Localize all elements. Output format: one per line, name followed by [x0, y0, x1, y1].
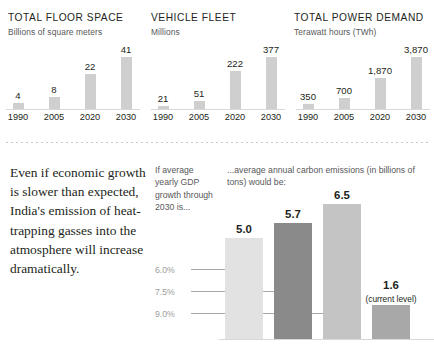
- x-tick-label: 2020: [362, 112, 398, 122]
- chart-plot-area: 4 8 22 41: [0, 44, 145, 110]
- bar-value-label: 700: [336, 85, 352, 96]
- bar: [85, 74, 96, 110]
- bar-value-label: 4: [15, 90, 20, 101]
- chart-plot-area: 350 700 1,870 3,870: [290, 44, 434, 110]
- x-tick-label: 2030: [398, 112, 434, 122]
- chart-subtitle: Billions of square meters: [8, 27, 145, 37]
- bar-value-label: 6.5: [334, 189, 350, 201]
- bar-value-label: 1.6: [383, 279, 399, 291]
- bar-column: 1,870: [362, 44, 398, 110]
- bar-value-label: 5.0: [236, 223, 252, 235]
- chart-carbon-emissions-scenarios: If average yearly GDP growth through 203…: [155, 160, 434, 344]
- bar-column: 222: [217, 44, 253, 110]
- x-axis-labels: 1990 2005 2020 2030: [145, 112, 289, 122]
- x-tick-label: 2005: [36, 112, 72, 122]
- chart-title: TOTAL POWER DEMAND: [294, 12, 434, 23]
- axis-line: [151, 109, 285, 110]
- pull-quote: Even if economic growth is slower than e…: [10, 163, 150, 278]
- bar: [266, 57, 277, 110]
- bar-value-label: 3,870: [404, 44, 428, 55]
- x-axis-labels: 1990 2005 2020 2030: [290, 112, 434, 122]
- chart-subtitle: Terawatt hours (TWh): [294, 27, 434, 37]
- bar-value-label: 222: [227, 58, 243, 69]
- section-divider: [6, 142, 428, 143]
- chart-vehicle-fleet: VEHICLE FLEET Millions 21 51 222 377: [145, 0, 290, 138]
- bar-column-gdp-7-5: 5.7: [274, 186, 312, 339]
- bar-column: 21: [145, 44, 181, 110]
- bar: [274, 223, 312, 339]
- bar-column: 41: [108, 44, 144, 110]
- chart-subtitle: Millions: [151, 27, 290, 37]
- bar-value-label: 350: [300, 91, 316, 102]
- bar-column: 22: [72, 44, 108, 110]
- bar-value-label: 41: [121, 44, 132, 55]
- gdp-label: 9.0%: [155, 309, 187, 319]
- axis-line: [6, 109, 140, 110]
- bar-group: 350 700 1,870 3,870: [290, 44, 434, 110]
- bar-column: 350: [290, 44, 326, 110]
- bar: [230, 71, 241, 110]
- x-axis-labels: 1990 2005 2020 2030: [0, 112, 144, 122]
- gdp-label: 6.0%: [155, 265, 187, 275]
- chart-plot-area: 6.0% 7.5% 9.0% 5.0 5.7 6.5 1: [155, 186, 434, 344]
- x-tick-label: 1990: [290, 112, 326, 122]
- x-tick-label: 2020: [72, 112, 108, 122]
- axis-line: [296, 109, 430, 110]
- x-tick-label: 2005: [181, 112, 217, 122]
- bar: [372, 305, 410, 339]
- bar-column: 3,870: [398, 44, 434, 110]
- chart-plot-area: 21 51 222 377: [145, 44, 290, 110]
- x-tick-label: 2005: [326, 112, 362, 122]
- bar-column-gdp-6: 5.0: [225, 186, 263, 339]
- bar-column-current-level: 1.6 (current level): [372, 186, 410, 339]
- bar: [121, 57, 132, 110]
- bar: [323, 204, 361, 339]
- x-tick-label: 2030: [108, 112, 144, 122]
- chart-total-floor-space: TOTAL FLOOR SPACE Billions of square met…: [0, 0, 145, 138]
- bar-group: 21 51 222 377: [145, 44, 289, 110]
- x-tick-label: 2020: [217, 112, 253, 122]
- bar-group: 5.0 5.7 6.5 1.6 (current level): [225, 186, 410, 339]
- bar-value-label: 21: [158, 93, 169, 104]
- x-tick-label: 1990: [145, 112, 181, 122]
- bar-column: 377: [253, 44, 289, 110]
- bar-value-label: 8: [51, 84, 56, 95]
- bar-group: 4 8 22 41: [0, 44, 144, 110]
- gdp-label: 7.5%: [155, 287, 187, 297]
- bar-column: 4: [0, 44, 36, 110]
- chart-total-power-demand: TOTAL POWER DEMAND Terawatt hours (TWh) …: [290, 0, 434, 138]
- bar-annotation: (current level): [365, 294, 416, 304]
- bar-column: 8: [36, 44, 72, 110]
- bar-value-label: 5.7: [285, 208, 301, 220]
- axis-line: [219, 339, 434, 340]
- bar-column: 51: [181, 44, 217, 110]
- chart-title: TOTAL FLOOR SPACE: [8, 12, 145, 23]
- bar-column-gdp-9: 6.5: [323, 186, 361, 339]
- bar-value-label: 377: [263, 44, 279, 55]
- x-tick-label: 1990: [0, 112, 36, 122]
- bar: [225, 238, 263, 339]
- bar-value-label: 1,870: [368, 65, 392, 76]
- x-tick-label: 2030: [253, 112, 289, 122]
- bar-column: 700: [326, 44, 362, 110]
- bar-value-label: 22: [85, 61, 96, 72]
- bar: [375, 78, 386, 110]
- top-charts-row: TOTAL FLOOR SPACE Billions of square met…: [0, 0, 434, 138]
- chart-title: VEHICLE FLEET: [151, 12, 290, 23]
- bar: [411, 57, 422, 110]
- bar-value-label: 51: [194, 88, 205, 99]
